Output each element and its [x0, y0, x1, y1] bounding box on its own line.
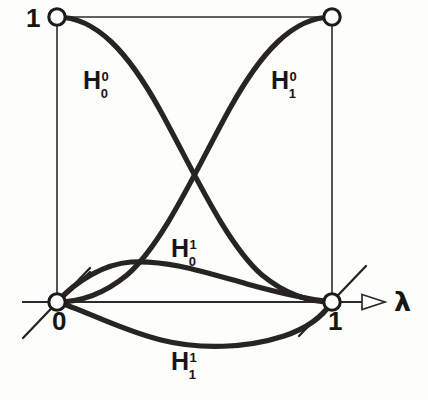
- curve-annotation-h01: H10: [171, 234, 196, 263]
- node-marker-top-right: [324, 9, 340, 25]
- curve-annotation-h10-superscript: 0: [290, 69, 297, 84]
- curve-annotation-h00-base: H: [83, 66, 101, 94]
- curve-annotation-h10: H01: [271, 66, 296, 95]
- figure-root: 1 0 1 λ H00 H01 H10 H11: [0, 0, 428, 400]
- lambda-axis-arrowhead: [362, 295, 385, 310]
- hermite-basis-plot: [0, 0, 428, 400]
- curve-annotation-h11-superscript: 1: [190, 350, 197, 365]
- curve-annotation-h00: H00: [83, 66, 108, 95]
- curve-annotation-h10-base: H: [271, 66, 289, 94]
- x-axis-tick-label-one: 1: [328, 306, 342, 337]
- curve-annotation-h01-subscript: 0: [189, 254, 196, 269]
- node-marker-top-left: [49, 9, 65, 25]
- curve-annotation-h01-superscript: 1: [190, 237, 197, 252]
- curve-annotation-h10-subscript: 1: [289, 86, 296, 101]
- curve-annotation-h00-subscript: 0: [101, 86, 108, 101]
- curve-annotation-h01-base: H: [171, 234, 189, 262]
- lambda-axis-symbol: λ: [394, 286, 411, 317]
- curve-h11: [57, 302, 332, 346]
- y-axis-tick-label-one: 1: [26, 3, 40, 34]
- curve-annotation-h11-subscript: 1: [189, 367, 196, 382]
- curve-annotation-h11: H11: [171, 347, 196, 376]
- curve-annotation-h00-superscript: 0: [102, 69, 109, 84]
- curve-annotation-h11-base: H: [171, 347, 189, 375]
- origin-tick-label-zero: 0: [52, 306, 66, 337]
